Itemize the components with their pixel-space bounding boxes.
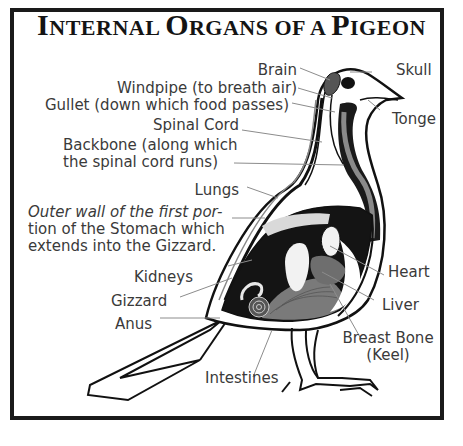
label-kidneys: Kidneys — [134, 269, 193, 285]
label-stomach-line3: extends into the Gizzard. — [28, 238, 216, 254]
label-anus: Anus — [115, 316, 152, 332]
label-backbone-line2: the spinal cord runs) — [63, 154, 218, 170]
label-gullet: Gullet (down which food passes) — [45, 97, 289, 113]
eye — [341, 77, 355, 89]
label-lungs: Lungs — [195, 182, 239, 198]
label-heart: Heart — [388, 264, 430, 280]
label-breast-bone-line1: Breast Bone — [336, 330, 440, 346]
gizzard-organ — [249, 297, 269, 317]
label-spinal-cord: Spinal Cord — [153, 117, 239, 133]
label-backbone-line1: Backbone (along which — [63, 137, 238, 153]
label-liver: Liver — [382, 297, 419, 313]
label-intestines: Intestines — [205, 370, 278, 386]
label-tonge: Tonge — [392, 111, 436, 127]
label-gizzard: Gizzard — [111, 293, 167, 309]
label-skull: Skull — [396, 62, 432, 78]
label-stomach-line1: Outer wall of the first por- — [28, 204, 222, 220]
label-breast-bone-line2: (Keel) — [336, 347, 440, 363]
tail-outline — [88, 320, 222, 400]
heart-organ — [321, 226, 340, 256]
label-brain: Brain — [258, 62, 297, 78]
label-windpipe: Windpipe (to breath air) — [117, 80, 297, 96]
label-stomach-line2: tion of the Stomach which — [28, 221, 225, 237]
